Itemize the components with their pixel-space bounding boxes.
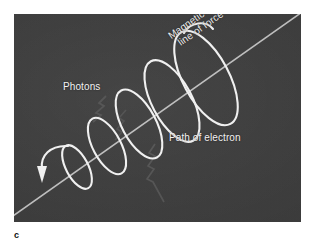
scene-drawing [14, 14, 301, 222]
figure-letter: c [14, 230, 19, 240]
label-photons: Photons [63, 81, 100, 92]
illustration-panel: Photons Path of electron Magnetic line o… [14, 14, 301, 222]
direction-arrowhead [37, 166, 47, 183]
label-path-of-electron: Path of electron [169, 132, 241, 143]
photon-zigzag-rays [93, 96, 164, 202]
figure-container: Photons Path of electron Magnetic line o… [0, 0, 315, 248]
electron-helical-path [42, 21, 251, 193]
